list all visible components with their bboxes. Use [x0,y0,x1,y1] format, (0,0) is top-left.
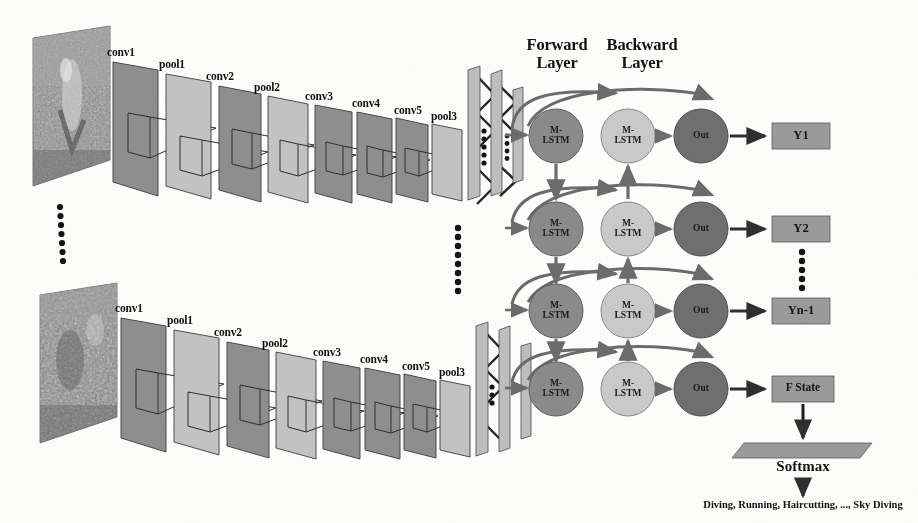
cnn-label-bottom-conv2: conv2 [214,326,242,338]
output-box-label-1: Y1 [772,128,830,143]
cnn-label-bottom-pool3: pool3 [439,366,465,378]
output-box-label-4: F State [772,381,834,393]
cnn-label-top-conv5: conv5 [394,104,422,116]
cnn-label-top-pool2: pool2 [254,81,280,93]
architecture-diagram: conv1 pool1 conv2 pool2 conv3 conv4 conv… [0,0,918,523]
backward-layer-header-line2: Layer [621,53,662,72]
forward-layer-header-line2: Layer [536,53,577,72]
output-box-label-3: Yn-1 [772,303,830,318]
backward-layer-header-line1: Backward [607,35,678,54]
cnn-label-bottom-conv4: conv4 [360,353,388,365]
cnn-label-top-pool1: pool1 [159,58,185,70]
output-box-label-2: Y2 [772,221,830,236]
softmax-shape [732,443,872,458]
cnn-label-top-conv3: conv3 [305,90,333,102]
cnn-label-top-pool3: pool3 [431,110,457,122]
cnn-label-top-conv2: conv2 [206,70,234,82]
cnn-label-bottom-pool1: pool1 [167,314,193,326]
cnn-label-top-conv4: conv4 [352,97,380,109]
forward-layer-header: Forward Layer [512,36,602,73]
cnn-label-bottom-conv3: conv3 [313,346,341,358]
cnn-label-bottom-conv5: conv5 [402,360,430,372]
class-list-label: Diving, Running, Haircutting, ..., Sky D… [653,499,918,510]
softmax-label: Softmax [743,458,863,475]
diagram-canvas [0,0,918,523]
cnn-label-top-conv1: conv1 [107,46,135,58]
forward-layer-header-line1: Forward [527,35,588,54]
cnn-label-bottom-conv1: conv1 [115,302,143,314]
cnn-label-bottom-pool2: pool2 [262,337,288,349]
backward-layer-header: Backward Layer [592,36,692,73]
